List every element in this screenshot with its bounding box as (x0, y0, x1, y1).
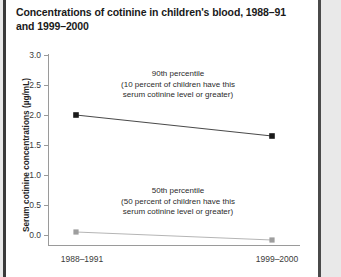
annotation-p90-line3: serum cotinine level or greater) (78, 90, 278, 101)
plot-area: 3.0 2.5 2.0 1.5 1.0 0.5 0.0 Serum cotini… (0, 0, 312, 277)
annotation-p90-line2: (10 percent of children have this (78, 80, 278, 91)
annotation-p50-line2: (50 percent of children have this (78, 197, 278, 208)
annotation-p50-line1: 50th percentile (78, 186, 278, 197)
chart-figure: Concentrations of cotinine in children's… (0, 0, 341, 277)
annotation-p90-line1: 90th percentile (78, 69, 278, 80)
annotation-p50-line3: serum cotinine level or greater) (78, 207, 278, 218)
p90-marker-left (73, 112, 79, 118)
p90-marker-right (269, 133, 275, 139)
p50-marker-left (73, 229, 78, 234)
right-background-fill (321, 0, 341, 277)
series-layer (0, 0, 312, 277)
p90-line (76, 115, 272, 136)
annotation-p50: 50th percentile (50 percent of children … (78, 186, 278, 218)
p50-marker-right (269, 237, 274, 242)
annotation-p90: 90th percentile (10 percent of children … (78, 69, 278, 101)
p50-line (76, 232, 272, 240)
